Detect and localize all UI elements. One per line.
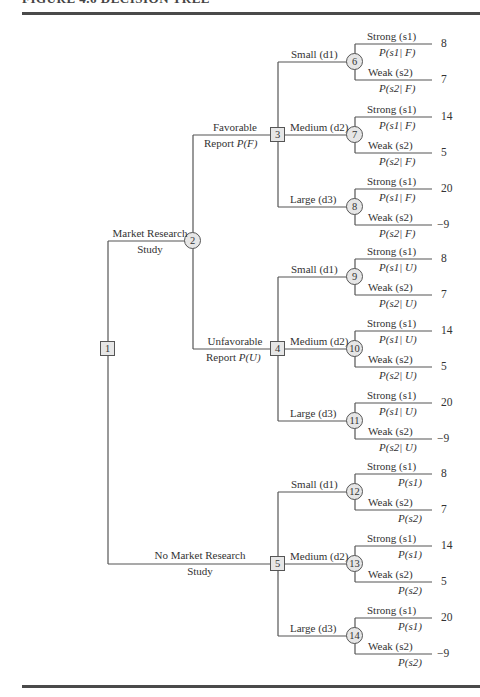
chance-node-13: 13 bbox=[346, 555, 363, 572]
chance-node-9: 9 bbox=[346, 268, 363, 285]
label-no-market-research: No Market Research bbox=[140, 549, 260, 561]
prob-strong: P(s1) bbox=[398, 548, 422, 560]
chance-node-6: 6 bbox=[346, 53, 363, 70]
label-weak-s2: Weak (s2) bbox=[368, 353, 413, 365]
payoff: 8 bbox=[441, 252, 447, 264]
label-strong-s1: Strong (s1) bbox=[367, 175, 416, 187]
label-strong-s1: Strong (s1) bbox=[367, 30, 416, 42]
label-large-d3: Large (d3) bbox=[290, 407, 337, 419]
prob-weak: P(s2| F) bbox=[379, 82, 415, 94]
label-strong-s1: Strong (s1) bbox=[367, 389, 416, 401]
label-small-d1: Small (d1) bbox=[291, 478, 338, 490]
chance-node-7: 7 bbox=[346, 126, 363, 143]
payoff: 20 bbox=[441, 396, 453, 408]
label-small-d1: Small (d1) bbox=[291, 48, 338, 60]
label-strong-s1: Strong (s1) bbox=[367, 103, 416, 115]
label-no-market-research-study: Study bbox=[140, 565, 260, 577]
label-large-d3: Large (d3) bbox=[290, 193, 337, 205]
prob-weak: P(s2| U) bbox=[379, 297, 417, 309]
payoff: 7 bbox=[441, 288, 447, 300]
label-favorable: Favorable bbox=[200, 121, 270, 133]
payoff: 5 bbox=[441, 360, 447, 372]
label-strong-s1: Strong (s1) bbox=[367, 460, 416, 472]
payoff: 7 bbox=[441, 503, 447, 515]
prob-strong: P(s1| F) bbox=[379, 119, 415, 131]
prob-strong: P(s1| U) bbox=[379, 261, 417, 273]
prob-weak: P(s2| F) bbox=[379, 155, 415, 167]
decision-node-4: 4 bbox=[270, 341, 285, 356]
payoff: 8 bbox=[441, 37, 447, 49]
payoff: 14 bbox=[441, 110, 453, 122]
label-small-d1: Small (d1) bbox=[291, 263, 338, 275]
prob-strong: P(s1| U) bbox=[379, 405, 417, 417]
payoff: 5 bbox=[441, 575, 447, 587]
prob-weak: P(s2| F) bbox=[379, 227, 415, 239]
label-market-research: Market Research bbox=[112, 227, 188, 239]
decision-node-5: 5 bbox=[270, 556, 285, 571]
label-large-d3: Large (d3) bbox=[290, 622, 337, 634]
prob-weak: P(s2) bbox=[398, 584, 422, 596]
chance-node-11: 11 bbox=[346, 412, 363, 429]
label-medium-d2: Medium (d2) bbox=[290, 121, 348, 133]
payoff: 5 bbox=[441, 146, 447, 158]
label-weak-s2: Weak (s2) bbox=[368, 211, 413, 223]
payoff: 14 bbox=[441, 539, 453, 551]
payoff: 20 bbox=[441, 182, 453, 194]
decision-node-1: 1 bbox=[100, 341, 115, 356]
payoff: 20 bbox=[441, 611, 453, 623]
prob-weak: P(s2| U) bbox=[379, 441, 417, 453]
payoff: 8 bbox=[441, 467, 447, 479]
chance-node-14: 14 bbox=[346, 627, 363, 644]
chance-node-12: 12 bbox=[346, 483, 363, 500]
label-weak-s2: Weak (s2) bbox=[368, 568, 413, 580]
prob-strong: P(s1| F) bbox=[379, 191, 415, 203]
label-weak-s2: Weak (s2) bbox=[368, 425, 413, 437]
prob-strong: P(s1) bbox=[398, 476, 422, 488]
label-weak-s2: Weak (s2) bbox=[368, 66, 413, 78]
prob-strong: P(s1| F) bbox=[379, 46, 415, 58]
label-weak-s2: Weak (s2) bbox=[368, 640, 413, 652]
prob-weak: P(s2) bbox=[398, 656, 422, 668]
payoff: 7 bbox=[441, 73, 447, 85]
label-market-research-study: Study bbox=[112, 243, 188, 255]
label-medium-d2: Medium (d2) bbox=[290, 335, 348, 347]
chance-node-8: 8 bbox=[346, 198, 363, 215]
prob-strong: P(s1| U) bbox=[379, 333, 417, 345]
label-favorable-report: Report P(F) bbox=[204, 137, 257, 149]
label-unfavorable-report: Report P(U) bbox=[206, 351, 261, 363]
label-strong-s1: Strong (s1) bbox=[367, 245, 416, 257]
label-strong-s1: Strong (s1) bbox=[367, 532, 416, 544]
label-weak-s2: Weak (s2) bbox=[368, 139, 413, 151]
chance-node-10: 10 bbox=[346, 340, 363, 357]
label-medium-d2: Medium (d2) bbox=[290, 550, 348, 562]
label-unfavorable: Unfavorable bbox=[200, 335, 270, 347]
payoff: 14 bbox=[441, 324, 453, 336]
label-weak-s2: Weak (s2) bbox=[368, 496, 413, 508]
label-strong-s1: Strong (s1) bbox=[367, 317, 416, 329]
prob-strong: P(s1) bbox=[398, 620, 422, 632]
payoff: −9 bbox=[437, 432, 449, 444]
prob-weak: P(s2| U) bbox=[379, 369, 417, 381]
payoff: −9 bbox=[437, 647, 449, 659]
payoff: −9 bbox=[437, 218, 449, 230]
label-strong-s1: Strong (s1) bbox=[367, 604, 416, 616]
prob-weak: P(s2) bbox=[398, 512, 422, 524]
label-weak-s2: Weak (s2) bbox=[368, 281, 413, 293]
decision-node-3: 3 bbox=[270, 127, 285, 142]
